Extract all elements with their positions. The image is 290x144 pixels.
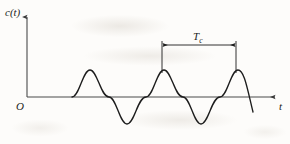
figure-canvas: c(t) O t Tc	[0, 0, 290, 144]
axis-labels-group: c(t) O t	[5, 6, 283, 112]
y-axis-label: c(t)	[5, 6, 21, 19]
x-axis-label: t	[279, 100, 283, 112]
waveform-figure: c(t) O t Tc	[0, 0, 290, 144]
period-annotation-group: Tc	[162, 30, 236, 73]
period-label-subscript: c	[199, 36, 203, 45]
axes-group	[27, 17, 275, 97]
origin-label: O	[16, 100, 24, 112]
period-label: Tc	[193, 30, 203, 45]
